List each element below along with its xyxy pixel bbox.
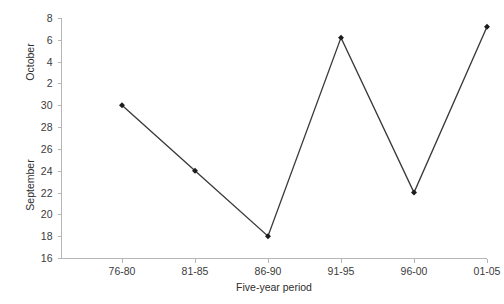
y-axis-title-october: October — [24, 43, 36, 81]
x-tick-label: 91-95 — [328, 265, 355, 277]
y-axis-title-september: September — [24, 159, 36, 211]
y-tick-label: 8 — [47, 12, 53, 24]
y-tick-label: 6 — [47, 34, 53, 46]
x-tick-label: 86-90 — [255, 265, 282, 277]
y-tick-label: 28 — [41, 121, 53, 133]
x-axis-title: Five-year period — [236, 281, 312, 293]
y-tick-label: 26 — [41, 143, 53, 155]
chart-canvas: 16182022242628302468 76-8081-8586-9091-9… — [0, 0, 504, 304]
y-tick-label: 20 — [41, 208, 53, 220]
line-chart: 16182022242628302468 76-8081-8586-9091-9… — [0, 0, 504, 304]
y-tick-label: 18 — [41, 230, 53, 242]
y-tick-label: 4 — [47, 56, 53, 68]
x-tick-label: 96-00 — [401, 265, 428, 277]
y-tick-label: 16 — [41, 252, 53, 264]
y-tick-label: 30 — [41, 99, 53, 111]
x-tick-label: 81-85 — [182, 265, 209, 277]
y-tick-label: 22 — [41, 187, 53, 199]
x-tick-label: 76-80 — [109, 265, 136, 277]
y-tick-label: 2 — [47, 77, 53, 89]
y-tick-label: 24 — [41, 165, 53, 177]
x-tick-label: 01-05 — [474, 265, 501, 277]
